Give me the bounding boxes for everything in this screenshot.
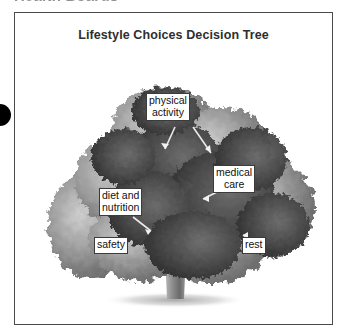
callout-safety: safety: [94, 237, 128, 254]
tree-photograph-icon: [15, 49, 332, 324]
callout-medical-care: medical care: [213, 165, 255, 193]
callout-physical-activity: physical activity: [146, 93, 190, 121]
tree-illustration: physical activity medical care diet and …: [15, 49, 332, 324]
figure-title: Lifestyle Choices Decision Tree: [15, 28, 332, 42]
bullet-circle-icon: [0, 104, 11, 126]
callout-diet-and-nutrition: diet and nutrition: [99, 188, 142, 216]
page-heading: Health Boards: [14, 0, 118, 4]
figure-panel: Lifestyle Choices Decision Tree: [14, 12, 333, 325]
callout-rest: rest: [242, 237, 266, 254]
